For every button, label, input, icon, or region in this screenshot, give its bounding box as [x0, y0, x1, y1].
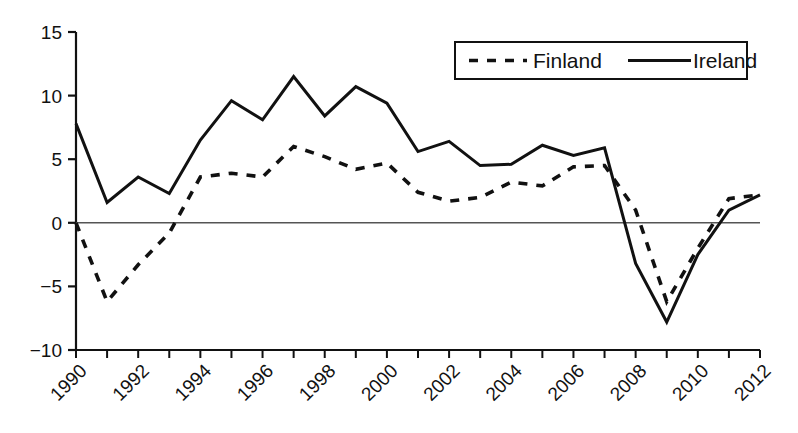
chart-container: 151050−5−10 1990199219941996199820002002…: [0, 0, 798, 433]
y-tick-label: 10: [41, 86, 62, 107]
y-tick-label: 15: [41, 22, 62, 43]
y-tick-label: 5: [51, 149, 62, 170]
y-tick-label: −10: [30, 340, 62, 361]
y-tick-label: −5: [40, 276, 62, 297]
legend: FinlandIreland: [455, 42, 757, 79]
y-tick-label: 0: [51, 213, 62, 234]
legend-label-finland: Finland: [533, 49, 602, 72]
line-chart: 151050−5−10 1990199219941996199820002002…: [0, 0, 798, 433]
legend-label-ireland: Ireland: [693, 49, 757, 72]
